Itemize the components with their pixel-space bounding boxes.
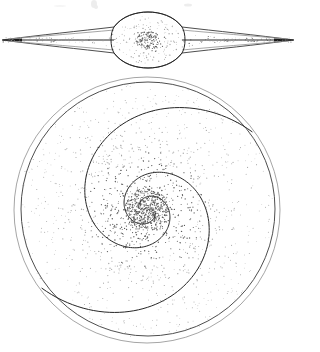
star-speck [136,250,137,251]
star-speck [160,221,161,222]
star-speck [135,201,136,202]
star-speck [134,205,135,206]
star-speck [137,211,138,212]
star-speck [114,188,115,189]
star-speck [214,37,215,38]
star-speck [209,140,210,141]
star-speck [118,210,119,211]
star-speck [256,241,257,242]
star-speck [110,210,111,211]
star-speck [200,108,201,109]
star-speck [197,224,198,225]
star-speck [187,188,188,189]
star-speck [167,29,168,30]
star-speck [143,193,144,194]
star-speck [110,131,111,132]
star-speck [177,273,178,274]
star-speck [144,215,145,216]
star-speck [155,46,156,47]
star-speck [75,42,76,43]
star-speck [143,221,144,222]
star-speck [148,200,149,201]
star-speck [236,271,237,272]
star-speck [86,276,87,277]
star-speck [282,39,283,40]
star-speck [199,177,200,178]
star-speck [162,256,163,257]
star-speck [112,206,113,207]
star-speck [52,40,53,41]
star-speck [52,237,53,238]
star-speck [188,158,189,159]
star-speck [24,207,25,208]
star-speck [145,29,146,30]
star-speck [116,224,117,225]
star-speck [127,186,128,187]
star-speck [152,217,153,218]
star-speck [254,41,255,42]
star-speck [137,217,138,218]
star-speck [208,38,209,39]
star-speck [142,224,143,225]
star-speck [200,236,201,237]
star-speck [193,181,194,182]
star-speck [168,33,169,34]
star-speck [80,192,81,193]
star-speck [174,42,175,43]
star-speck [88,296,89,297]
star-speck [121,155,122,156]
star-speck [148,38,149,39]
star-speck [120,218,121,219]
star-speck [108,133,109,134]
star-speck [80,161,81,162]
star-speck [131,204,132,205]
star-speck [186,308,187,309]
star-speck [161,151,162,152]
star-speck [157,213,158,214]
star-speck [150,206,151,207]
star-speck [218,176,219,177]
star-speck [270,39,271,40]
star-speck [163,217,164,218]
star-speck [32,253,33,254]
star-speck [135,199,136,200]
star-speck [224,263,225,264]
star-speck [160,147,161,148]
star-speck [138,55,139,56]
star-speck [117,148,118,149]
star-speck [269,41,270,42]
star-speck [92,42,93,43]
star-speck [146,279,147,280]
star-speck [62,185,63,186]
star-speck [134,244,135,245]
star-speck [145,63,146,64]
star-speck [93,40,94,41]
star-speck [151,213,152,214]
star-speck [187,253,188,254]
star-speck [173,40,174,41]
star-speck [141,40,142,41]
star-speck [178,326,179,327]
star-speck [136,122,137,123]
star-speck [186,238,187,239]
star-speck [54,40,55,41]
star-speck [198,228,199,229]
star-speck [136,199,137,200]
star-speck [139,171,140,172]
star-speck [181,186,182,187]
star-speck [90,191,91,192]
star-speck [203,128,204,129]
star-speck [39,37,40,38]
star-speck [184,269,185,270]
star-speck [209,205,210,206]
star-speck [127,243,128,244]
star-speck [261,38,262,39]
star-speck [151,225,152,226]
star-speck [86,189,87,190]
star-speck [223,298,224,299]
star-speck [40,140,41,141]
star-speck [136,194,137,195]
star-speck [156,114,157,115]
star-speck [131,260,132,261]
star-speck [152,59,153,60]
